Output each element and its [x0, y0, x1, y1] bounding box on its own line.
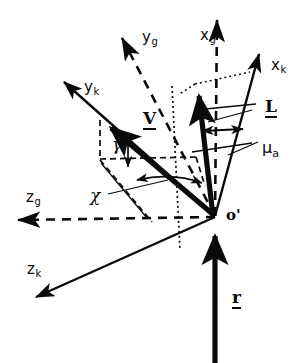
- lift-label-leader: [208, 110, 252, 122]
- vector-label-V: V: [143, 110, 156, 130]
- axis-label-xg: xg: [200, 28, 215, 43]
- vector-V-line: [111, 128, 215, 216]
- angle-chi-leader2: [101, 163, 147, 218]
- axis-zg-line: [18, 217, 215, 220]
- axis-label-xk: xk: [271, 58, 286, 73]
- angle-label-gamma: γ: [112, 136, 122, 153]
- origin-label: o': [226, 208, 241, 223]
- axis-xg-line: [215, 20, 217, 216]
- axis-label-zg: zg: [26, 190, 40, 205]
- lift-tip-to-xg-dotted: [195, 72, 250, 84]
- axis-label-zk: zk: [27, 262, 41, 277]
- angle-label-chi: χ: [90, 187, 100, 204]
- kinematic-axes-group: [36, 54, 259, 297]
- angle-mu-arrow: [202, 129, 243, 131]
- axis-label-yk: yk: [84, 80, 99, 95]
- v-ground-track-line: [100, 160, 152, 222]
- diagram-root: yg xg xk yk zg zk V L r γ χ μa o': [0, 0, 305, 363]
- diagram-canvas: [0, 0, 305, 363]
- axis-xk-line: [215, 54, 259, 216]
- mu-construction-top: [195, 104, 256, 110]
- angle-indicators-group: [101, 110, 258, 218]
- vector-label-L: L: [265, 98, 277, 118]
- axis-zk-line: [36, 217, 215, 297]
- vector-label-r: r: [232, 289, 241, 309]
- lift-plane-trace-dotted: [172, 86, 180, 250]
- angle-label-mu-a: μa: [262, 140, 279, 156]
- lift-tip-dotted-left: [178, 84, 195, 95]
- axis-label-yg: yg: [142, 30, 157, 45]
- mu-construction-bottom: [192, 143, 252, 152]
